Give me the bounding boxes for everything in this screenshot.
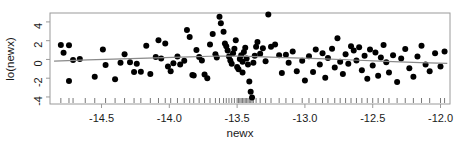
data-point: [364, 76, 370, 82]
data-point: [329, 46, 335, 52]
data-point: [92, 74, 98, 80]
data-point: [118, 60, 124, 66]
data-point: [272, 41, 278, 47]
data-point: [229, 61, 235, 67]
data-point: [383, 59, 389, 65]
data-point: [263, 58, 269, 64]
data-point: [381, 42, 387, 48]
data-point: [100, 47, 106, 53]
x-tick-label: -14.0: [157, 112, 182, 124]
data-point: [240, 70, 246, 76]
y-tick-label: -4: [32, 96, 44, 106]
data-point: [334, 35, 340, 41]
x-axis-title: newx: [227, 127, 254, 139]
data-point: [66, 42, 72, 48]
data-point: [138, 69, 144, 75]
data-point: [438, 63, 444, 69]
data-point: [340, 71, 346, 77]
data-point: [406, 65, 412, 71]
data-point: [345, 61, 351, 67]
data-point: [233, 37, 239, 43]
data-point: [218, 20, 224, 26]
data-point: [394, 79, 400, 85]
data-point: [410, 74, 416, 80]
x-tick-label: -13.0: [292, 112, 317, 124]
data-point: [257, 51, 263, 57]
data-point: [248, 89, 254, 95]
data-point: [191, 72, 197, 78]
data-point: [245, 62, 251, 68]
data-point: [290, 48, 296, 54]
y-tick-label: 4: [32, 23, 44, 29]
data-point: [77, 56, 83, 62]
data-point: [286, 60, 292, 66]
data-point: [254, 39, 260, 45]
data-point: [322, 75, 328, 81]
data-point: [207, 41, 213, 47]
data-point: [127, 59, 133, 65]
data-point: [427, 68, 433, 74]
data-point: [143, 43, 149, 49]
y-axis-title: lo(newx): [4, 37, 16, 81]
data-point: [356, 44, 362, 50]
data-point: [359, 67, 365, 73]
x-tick-label: -12.5: [360, 112, 385, 124]
data-point: [302, 78, 308, 84]
data-point: [210, 31, 216, 37]
data-point: [419, 43, 425, 49]
data-point: [250, 60, 256, 66]
data-point: [204, 75, 210, 81]
data-point: [332, 64, 338, 70]
data-point: [66, 78, 72, 84]
data-point: [249, 94, 255, 100]
x-tick-label: -13.5: [225, 112, 250, 124]
data-point: [112, 76, 118, 82]
data-point: [216, 14, 222, 20]
data-point: [283, 52, 289, 58]
data-point: [187, 34, 193, 40]
data-point: [375, 73, 381, 79]
data-point: [158, 56, 164, 62]
data-point: [170, 60, 176, 66]
data-point: [317, 62, 323, 68]
y-tick-label: 0: [32, 60, 44, 66]
data-point: [343, 51, 349, 57]
data-point: [367, 47, 373, 53]
data-point: [260, 45, 266, 51]
data-point: [147, 71, 153, 77]
data-point: [378, 55, 384, 61]
data-point: [279, 70, 285, 76]
scatter-plot-figure: 420-2-4 -14.5-14.0-13.5-13.0-12.5-12.0 l…: [0, 0, 470, 144]
data-point: [362, 53, 368, 59]
data-point: [242, 45, 248, 51]
data-point: [162, 40, 168, 46]
data-point: [320, 50, 326, 56]
data-point: [131, 69, 137, 75]
data-point: [294, 68, 300, 74]
data-point: [398, 56, 404, 62]
data-point: [184, 27, 190, 33]
data-point: [265, 11, 271, 17]
data-point: [325, 55, 331, 61]
data-point: [225, 48, 231, 54]
data-point: [370, 63, 376, 69]
data-point: [432, 50, 438, 56]
data-point: [442, 48, 448, 54]
data-point: [246, 78, 252, 84]
data-point: [193, 47, 199, 53]
plot-canvas: 420-2-4 -14.5-14.0-13.5-13.0-12.5-12.0 l…: [0, 0, 470, 144]
data-point: [372, 49, 378, 55]
data-point: [313, 47, 319, 53]
data-point: [414, 54, 420, 60]
x-tick-label: -12.0: [428, 112, 453, 124]
data-point: [61, 50, 67, 56]
data-point: [252, 53, 258, 59]
x-tick-label: -14.5: [89, 112, 114, 124]
data-point: [155, 37, 161, 43]
data-point: [103, 62, 109, 68]
data-point: [58, 42, 64, 48]
data-point: [168, 68, 174, 74]
data-point: [134, 61, 140, 67]
data-point: [153, 54, 159, 60]
data-point: [351, 48, 357, 54]
